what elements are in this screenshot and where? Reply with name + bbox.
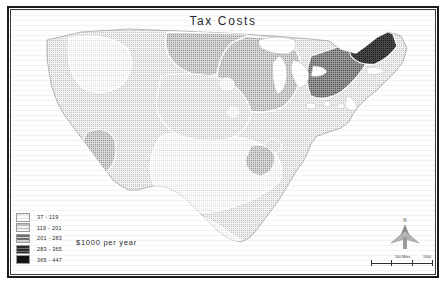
region-island-a	[220, 78, 234, 90]
legend-swatch-1	[16, 213, 30, 222]
scale-bar-tick	[391, 260, 392, 266]
scale-bar-tick	[412, 260, 413, 266]
island-b	[323, 101, 331, 107]
legend-units-label: $1000 per year	[76, 238, 137, 247]
scale-bar-tick	[371, 260, 372, 266]
legend-label-2: 119 - 201	[37, 225, 62, 231]
scale-bar-label-right: 1000	[423, 255, 431, 259]
island-c	[337, 104, 345, 109]
legend-swatch-2	[16, 223, 30, 232]
legend-item[interactable]: 37 - 119	[16, 212, 146, 223]
legend-label-1: 37 - 119	[37, 214, 58, 220]
island-a	[306, 103, 316, 109]
map-figure: Tax Costs 37 - 119 119 - 201 201 - 283 2…	[0, 0, 446, 293]
region-colorado-pocket	[82, 129, 116, 173]
region-island-b	[227, 107, 239, 117]
legend-swatch-5	[16, 255, 30, 264]
legend-item[interactable]: 119 - 201	[16, 223, 146, 234]
legend-label-3: 201 - 283	[37, 235, 62, 241]
legend-swatch-3	[16, 234, 30, 243]
scale-bar-line	[371, 263, 433, 264]
legend-label-5: 365 - 447	[37, 257, 62, 263]
legend-swatch-4	[16, 245, 30, 254]
scale-bar-tick	[432, 260, 433, 266]
map-title: Tax Costs	[0, 14, 446, 28]
legend-item[interactable]: 365 - 447	[16, 254, 146, 265]
region-florida	[277, 196, 306, 244]
legend-label-4: 283 - 365	[37, 246, 62, 252]
scale-bar-icon: 500 Miles 1000	[371, 255, 433, 269]
scale-bar-label-center: 500 Miles	[395, 255, 410, 259]
north-arrow-icon: N	[388, 218, 422, 250]
